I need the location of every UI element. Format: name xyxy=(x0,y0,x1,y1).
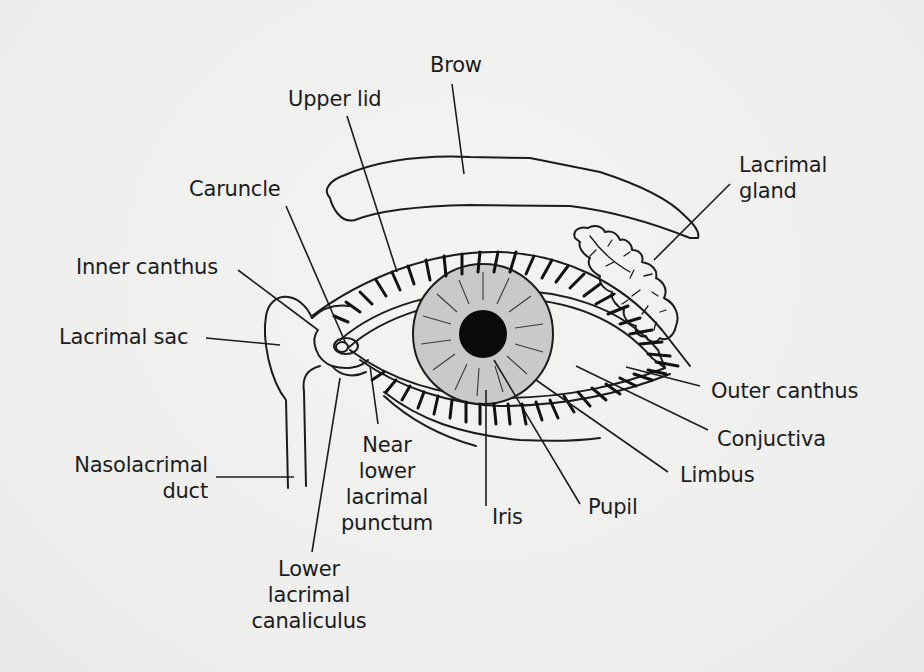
leader-lacrimal-sac xyxy=(206,338,280,345)
lacrimal-gland-shape xyxy=(574,226,677,342)
label-upper-lid: Upper lid xyxy=(288,86,381,112)
label-lacrimal-sac: Lacrimal sac xyxy=(59,324,188,350)
label-lacrimal-gland: Lacrimal gland xyxy=(739,152,827,204)
label-near-lower-lacrimal-punctum: Near lower lacrimal punctum xyxy=(334,432,440,536)
label-pupil: Pupil xyxy=(588,494,638,520)
label-conjuctiva: Conjuctiva xyxy=(717,426,826,452)
label-inner-canthus: Inner canthus xyxy=(76,254,218,280)
leader-caruncle xyxy=(286,206,346,344)
nasolacrimal-duct-shape xyxy=(304,366,320,486)
label-brow: Brow xyxy=(430,52,482,78)
label-nasolacrimal-duct: Nasolacrimal duct xyxy=(42,452,208,504)
leader-upper-lid xyxy=(347,116,397,272)
label-outer-canthus: Outer canthus xyxy=(711,378,858,404)
eye-anatomy-diagram: Brow Upper lid Lacrimal gland Caruncle I… xyxy=(0,0,924,672)
label-caruncle: Caruncle xyxy=(189,176,281,202)
leader-inner-canthus xyxy=(238,270,318,330)
label-iris: Iris xyxy=(492,504,523,530)
leader-near-lower-punctum xyxy=(370,366,378,424)
inner-canthus-shape xyxy=(314,330,368,368)
pupil-shape xyxy=(459,310,507,358)
leader-limbus xyxy=(536,380,668,472)
label-lower-lacrimal-canaliculus: Lower lacrimal canaliculus xyxy=(242,556,376,634)
leader-lacrimal-gland xyxy=(654,184,730,260)
label-limbus: Limbus xyxy=(680,462,754,488)
leader-brow xyxy=(452,84,464,174)
